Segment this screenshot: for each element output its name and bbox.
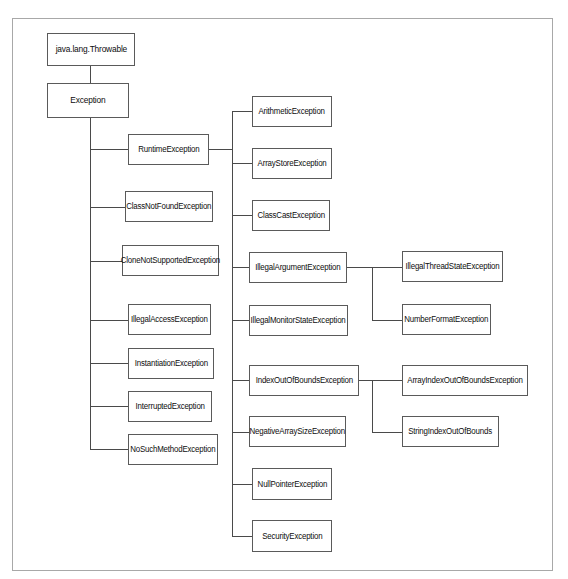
edge-runtime-negative-array-size [232, 432, 249, 433]
node-interrupted-exception[interactable]: InterruptedException [128, 391, 212, 422]
diagram-canvas: java.lang.Throwable Exception RuntimeExc… [0, 0, 568, 579]
node-array-index-out-of-bounds-exception[interactable]: ArrayIndexOutOfBoundsException [402, 365, 528, 396]
edge-runtime-illegal-argument [232, 267, 249, 268]
edge-exception-interrupted [90, 406, 128, 407]
node-string-index-out-of-bounds-label: StringIndexOutOfBounds [409, 427, 493, 436]
node-security-exception[interactable]: SecurityException [252, 520, 332, 552]
node-array-store-exception[interactable]: ArrayStoreException [252, 148, 332, 179]
node-interrupted-exception-label: InterruptedException [135, 402, 204, 411]
node-clone-not-supported-exception[interactable]: CloneNotSupportedException [122, 245, 219, 276]
node-illegal-monitor-state-exception-label: IllegalMonitorStateException [251, 316, 346, 325]
edge-illegal-argument-out [347, 267, 372, 268]
edge-exception-instantiation [90, 363, 128, 364]
node-arithmetic-exception[interactable]: ArithmeticException [252, 96, 332, 127]
node-class-not-found-exception[interactable]: ClassNotFoundException [125, 191, 213, 222]
edge-runtime-class-cast [232, 215, 252, 216]
edge-illegal-argument-number-format [372, 320, 402, 321]
node-illegal-argument-exception-label: IllegalArgumentException [255, 263, 340, 272]
edge-runtime-trunk [232, 111, 233, 536]
edge-throwable-exception [90, 66, 91, 83]
node-no-such-method-exception-label: NoSuchMethodException [130, 445, 215, 454]
node-runtime-exception-label: RuntimeException [138, 145, 199, 154]
node-number-format-exception-label: NumberFormatException [405, 315, 489, 324]
node-illegal-thread-state-exception[interactable]: IllegalThreadStateException [402, 251, 503, 282]
edge-runtime-array-store [232, 163, 252, 164]
node-runtime-exception[interactable]: RuntimeException [128, 134, 209, 165]
edge-index-out-of-bounds-trunk [372, 380, 373, 432]
node-string-index-out-of-bounds[interactable]: StringIndexOutOfBounds [402, 416, 499, 447]
node-illegal-access-exception[interactable]: IllegalAccessException [128, 304, 211, 335]
edge-exception-class-not-found [90, 207, 125, 208]
node-throwable[interactable]: java.lang.Throwable [47, 33, 135, 66]
node-exception[interactable]: Exception [47, 83, 129, 118]
node-index-out-of-bounds-exception-label: IndexOutOfBoundsException [255, 376, 352, 385]
node-class-cast-exception[interactable]: ClassCastException [252, 200, 330, 231]
node-exception-label: Exception [70, 96, 105, 105]
edge-exception-runtime [90, 149, 128, 150]
edge-exception-clone-not-supported [90, 261, 122, 262]
edge-exception-illegal-access [90, 320, 128, 321]
node-no-such-method-exception[interactable]: NoSuchMethodException [128, 434, 218, 465]
node-null-pointer-exception[interactable]: NullPointerException [252, 468, 332, 500]
node-index-out-of-bounds-exception[interactable]: IndexOutOfBoundsException [249, 365, 359, 396]
edge-index-out-of-bounds-array-index [372, 380, 402, 381]
edge-index-out-of-bounds-string-index [372, 432, 402, 433]
edge-illegal-argument-illegal-thread-state [372, 267, 402, 268]
node-class-not-found-exception-label: ClassNotFoundException [126, 202, 211, 211]
node-instantiation-exception-label: InstantiationException [134, 359, 207, 368]
node-null-pointer-exception-label: NullPointerException [257, 480, 327, 489]
edge-runtime-null-pointer [232, 484, 252, 485]
edge-runtime-security [232, 536, 252, 537]
edge-index-out-of-bounds-out [359, 380, 372, 381]
node-negative-array-size-exception-label: NegativeArraySizeException [250, 427, 345, 436]
node-throwable-label: java.lang.Throwable [55, 45, 126, 54]
node-class-cast-exception-label: ClassCastException [257, 211, 324, 220]
node-number-format-exception[interactable]: NumberFormatException [402, 304, 491, 335]
edge-runtime-illegal-monitor-state [232, 320, 249, 321]
node-negative-array-size-exception[interactable]: NegativeArraySizeException [249, 416, 346, 447]
edge-runtime-out [208, 149, 232, 150]
node-illegal-monitor-state-exception[interactable]: IllegalMonitorStateException [249, 305, 348, 336]
node-illegal-thread-state-exception-label: IllegalThreadStateException [406, 262, 500, 271]
node-clone-not-supported-exception-label: CloneNotSupportedException [121, 256, 220, 265]
node-security-exception-label: SecurityException [262, 532, 322, 541]
node-array-store-exception-label: ArrayStoreException [258, 159, 327, 168]
edge-illegal-argument-trunk [372, 267, 373, 320]
edge-runtime-arithmetic [232, 111, 252, 112]
edge-exception-no-such-method [90, 449, 128, 450]
node-illegal-argument-exception[interactable]: IllegalArgumentException [249, 252, 347, 283]
edge-exception-trunk [90, 118, 91, 450]
edge-runtime-index-out-of-bounds [232, 380, 249, 381]
node-illegal-access-exception-label: IllegalAccessException [131, 315, 208, 324]
node-arithmetic-exception-label: ArithmeticException [259, 107, 325, 116]
node-array-index-out-of-bounds-exception-label: ArrayIndexOutOfBoundsException [407, 376, 522, 385]
node-instantiation-exception[interactable]: InstantiationException [128, 348, 214, 379]
